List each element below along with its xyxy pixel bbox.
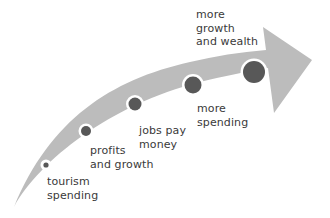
- step-2-line-2: and growth: [90, 158, 153, 172]
- step-3-line-1: jobs pay: [139, 124, 186, 138]
- step-5-label: more growth and wealth: [196, 8, 258, 49]
- tourism-growth-diagram: tourism spending profits and growth jobs…: [0, 0, 330, 218]
- node-1-icon: [41, 160, 52, 171]
- step-4-label: more spending: [197, 102, 248, 129]
- node-2-icon: [79, 124, 94, 139]
- step-5-line-2: growth: [196, 22, 258, 36]
- step-1-label: tourism spending: [47, 175, 98, 202]
- step-4-line-2: spending: [197, 116, 248, 130]
- step-3-label: jobs pay money: [139, 124, 186, 151]
- step-4-line-1: more: [197, 102, 248, 116]
- node-4-icon: [182, 74, 204, 96]
- step-5-line-3: and wealth: [196, 35, 258, 49]
- step-1-line-2: spending: [47, 189, 98, 203]
- node-3-icon: [126, 95, 144, 113]
- node-5-icon: [241, 59, 268, 86]
- step-3-line-2: money: [139, 138, 186, 152]
- step-1-line-1: tourism: [47, 175, 98, 189]
- step-5-line-1: more: [196, 8, 258, 22]
